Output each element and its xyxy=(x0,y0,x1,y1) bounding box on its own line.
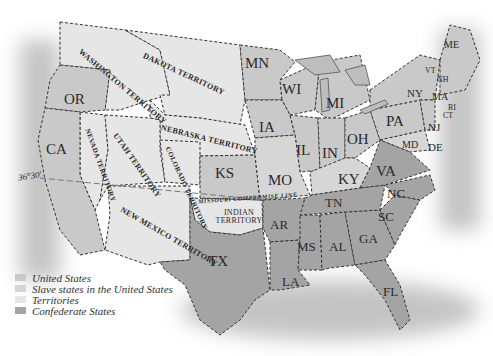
map-legend: United States Slave states in the United… xyxy=(15,272,173,316)
state-label-nc: NC xyxy=(387,187,405,200)
state-label-pa: PA xyxy=(386,114,404,129)
state-label-ia: IA xyxy=(259,120,275,135)
state-label-nh: NH xyxy=(437,76,449,84)
legend-swatch xyxy=(15,296,26,303)
state-label-ks: KS xyxy=(215,166,234,181)
state-label-oh: OH xyxy=(347,132,369,147)
state-label-ga: GA xyxy=(359,232,378,245)
state-label-sc: SC xyxy=(378,210,394,223)
legend-swatch xyxy=(15,307,26,314)
state-label-ms: MS xyxy=(297,240,316,253)
state-label-nj: NJ xyxy=(428,122,440,133)
legend-swatch xyxy=(15,285,26,292)
state-label-ma: MA xyxy=(432,92,448,102)
legend-item-slave-states: Slave states in the United States xyxy=(15,283,173,294)
state-label-fl: FL xyxy=(383,285,398,298)
state-label-va: VA xyxy=(376,164,396,179)
state-label-ny: NY xyxy=(407,88,423,99)
legend-item-united-states: United States xyxy=(15,272,173,283)
state-label-ar: AR xyxy=(270,218,288,231)
state-label-mi: MI xyxy=(326,96,344,111)
legend-item-confederate: Confederate States xyxy=(15,305,173,316)
legend-label: Confederate States xyxy=(32,305,115,317)
state-label-mn: MN xyxy=(245,56,269,71)
state-label-wi: WI xyxy=(282,82,301,97)
state-label-md: MD xyxy=(402,140,418,150)
legend-item-territories: Territories xyxy=(15,294,173,305)
state-label-ca: CA xyxy=(46,142,67,157)
state-label-mo: MO xyxy=(268,173,292,188)
territory-label-indian: INDIAN TERRITORY xyxy=(215,209,263,225)
state-label-de: DE xyxy=(428,142,443,153)
state-label-in: IN xyxy=(322,146,338,161)
state-label-ct: CT xyxy=(443,112,453,120)
state-label-la: LA xyxy=(282,275,299,288)
state-label-me: ME xyxy=(444,40,459,50)
state-label-ky: KY xyxy=(338,172,360,187)
state-label-tn: TN xyxy=(325,196,342,209)
state-label-il: IL xyxy=(296,143,310,158)
legend-swatch xyxy=(15,274,26,281)
state-label-al: AL xyxy=(329,240,346,253)
state-label-or: OR xyxy=(64,92,85,107)
state-label-vt: VT xyxy=(425,67,436,75)
